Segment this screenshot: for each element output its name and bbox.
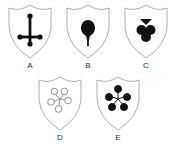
flower-outline-icon [37, 74, 83, 132]
shield-b: B [65, 2, 111, 72]
shield-label-a: A [7, 61, 53, 71]
shield-a: A [7, 2, 53, 72]
shield-label-e: E [95, 133, 141, 143]
club-icon [123, 2, 169, 60]
inverted-cross-icon [7, 2, 53, 60]
shield-label-c: C [123, 61, 169, 71]
shield-label-b: B [65, 61, 111, 71]
shield-d: D [37, 74, 83, 144]
pin-icon [65, 2, 111, 60]
shield-e: E [95, 74, 141, 144]
flower-solid-icon [95, 74, 141, 132]
shield-label-d: D [37, 133, 83, 143]
shield-c: C [123, 2, 169, 72]
